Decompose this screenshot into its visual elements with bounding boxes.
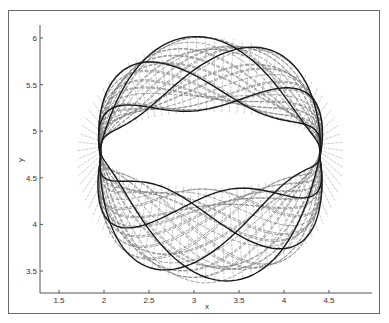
orbit-hatch	[265, 183, 276, 265]
orbit-hatch	[169, 43, 176, 114]
background-orbits	[77, 37, 343, 283]
x-tick-label: 4	[282, 296, 287, 305]
orbit-hatch	[78, 155, 101, 176]
orbit-hatch	[319, 155, 342, 176]
orbit-hatch	[77, 147, 100, 150]
y-tick-label: 5.5	[26, 81, 38, 90]
background-orbit	[101, 152, 320, 270]
orbit-hatch	[320, 147, 343, 150]
y-tick-label: 5	[33, 127, 38, 136]
background-orbit	[99, 88, 323, 158]
x-axis-label: x	[205, 302, 209, 311]
orbit-hatch	[77, 150, 100, 159]
background-orbit	[99, 81, 322, 157]
chart-plot: 1.522.533.544.5 3.544.555.56 x y	[0, 0, 389, 323]
x-tick-label: 3	[192, 296, 197, 305]
x-tick-label: 4.5	[323, 296, 335, 305]
x-tick-label: 2	[102, 296, 107, 305]
x-axis-ticks: 1.522.533.544.5	[53, 290, 335, 305]
x-tick-label: 3.5	[233, 296, 245, 305]
background-orbit	[101, 37, 320, 150]
x-tick-label: 1.5	[53, 296, 65, 305]
background-orbit	[99, 81, 322, 158]
y-tick-label: 4.5	[26, 174, 38, 183]
y-tick-label: 4	[33, 220, 38, 229]
background-orbit	[99, 156, 321, 247]
orbit-hatch	[78, 142, 101, 144]
orbit-hatch	[320, 150, 343, 159]
background-orbit	[99, 156, 321, 246]
background-orbit	[101, 152, 320, 268]
y-tick-label: 6	[33, 34, 38, 43]
y-tick-label: 3.5	[26, 267, 38, 276]
y-axis-label: y	[16, 158, 25, 162]
orbit-hatch	[320, 152, 343, 167]
orbit-hatch	[77, 152, 100, 167]
x-tick-label: 2.5	[143, 296, 155, 305]
